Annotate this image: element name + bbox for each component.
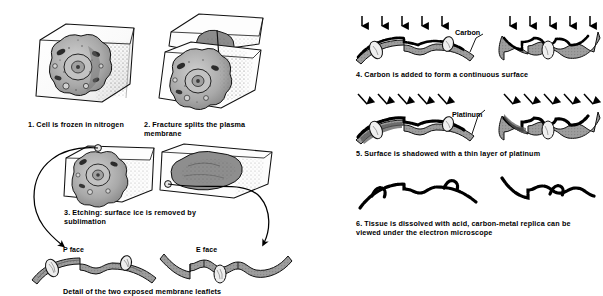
- step-5-particle: [542, 121, 554, 139]
- replica-outline-right: [502, 178, 594, 198]
- carbon-arrows-left: [362, 16, 442, 26]
- step-5-illustration: [352, 92, 600, 150]
- step-4-particle: [542, 41, 554, 59]
- step-6-illustration: [352, 172, 600, 218]
- step-4-caption: 4.Carbon is added to form a continuous s…: [356, 71, 596, 80]
- e-face-label: E face: [196, 246, 217, 253]
- step-4-p-face-membrane: [356, 36, 474, 64]
- step-6-text: Tissue is dissolved with acid, carbon-me…: [356, 219, 571, 237]
- step-4-illustration: [352, 12, 600, 70]
- step-4-e-face-membrane: [499, 32, 600, 60]
- e-face-leader: [168, 184, 269, 243]
- step-5-p-face-membrane: [356, 116, 474, 144]
- p-face-detail-illustration: [28, 252, 160, 288]
- step-4-number: 4.: [356, 70, 362, 79]
- step-5-caption: 5.Surface is shadowed with a thin layer …: [356, 150, 600, 159]
- step-4-text: Carbon is added to form a continuous sur…: [364, 70, 528, 79]
- step-6-caption: 6.Tissue is dissolved with acid, carbon-…: [356, 220, 594, 237]
- step-2-illustration: [143, 6, 273, 118]
- step-1-text: Cell is frozen in nitrogen: [36, 120, 124, 129]
- step-1-number: 1.: [28, 120, 34, 129]
- carbon-callout-label: Carbon: [455, 28, 480, 37]
- platinum-arrows-right: [504, 94, 593, 104]
- p-face-label: P face: [63, 246, 84, 253]
- step-2-caption: 2.Fracture splits the plasma membrane: [144, 121, 269, 138]
- step-2-text: Fracture splits the plasma membrane: [144, 120, 245, 138]
- step-1-caption: 1.Cell is frozen in nitrogen: [28, 121, 148, 130]
- carbon-arrows-right: [510, 16, 590, 26]
- freeze-fracture-figure: 1.Cell is frozen in nitrogen 2.Fracture …: [0, 0, 603, 296]
- frozen-cell-1: [49, 34, 111, 95]
- step-5-text: Surface is shadowed with a thin layer of…: [364, 149, 540, 158]
- step-5-e-face-membrane: [499, 112, 600, 140]
- platinum-arrows-left: [358, 94, 447, 104]
- detail-leader-arrows: [20, 145, 300, 260]
- step-5-number: 5.: [356, 149, 362, 158]
- e-face-detail-illustration: [158, 250, 294, 288]
- membrane-protein-e1: [214, 265, 226, 283]
- platinum-callout-label: Platinum: [452, 110, 482, 119]
- step-1-illustration: [22, 10, 147, 115]
- figure-bottom-caption: Detail of the two exposed membrane leafl…: [63, 288, 293, 296]
- p-face-leader: [34, 148, 98, 245]
